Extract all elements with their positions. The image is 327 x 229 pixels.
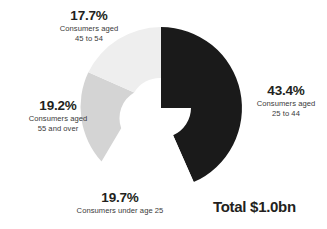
- slice-label-aged-45-54: 17.7% Consumers aged 45 to 54: [28, 8, 150, 44]
- slice-label-aged-25-44: 43.4% Consumers aged 25 to 44: [244, 83, 327, 119]
- slice-desc-line2-aged-25-44: 25 to 44: [244, 109, 327, 119]
- slice-label-aged-55-over: 19.2% Consumers aged 55 and over: [2, 98, 114, 134]
- slice-label-under-25: 19.7% Consumers under age 25: [50, 190, 190, 216]
- donut-chart: 17.7% Consumers aged 45 to 54 19.2% Cons…: [0, 0, 327, 229]
- slice-percent-aged-25-44: 43.4%: [244, 83, 327, 98]
- chart-total-label: Total $1.0bn: [213, 198, 325, 215]
- slice-desc-line2-aged-45-54: 45 to 54: [28, 34, 150, 44]
- slice-desc-line1-aged-45-54: Consumers aged: [28, 24, 150, 34]
- slice-percent-aged-55-over: 19.2%: [2, 98, 114, 113]
- slice-desc-line1-aged-25-44: Consumers aged: [244, 99, 327, 109]
- slice-desc-line2-aged-55-over: 55 and over: [2, 124, 114, 134]
- slice-desc-line1-aged-55-over: Consumers aged: [2, 114, 114, 124]
- slice-desc-line1-under-25: Consumers under age 25: [50, 206, 190, 216]
- slice-percent-aged-45-54: 17.7%: [28, 8, 150, 23]
- slice-percent-under-25: 19.7%: [50, 190, 190, 205]
